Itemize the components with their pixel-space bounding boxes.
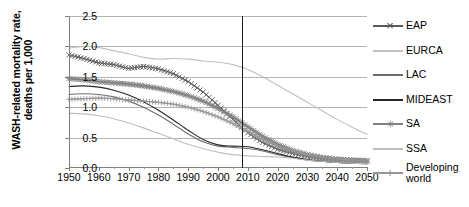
x-minor-tickmark [293, 167, 294, 169]
chart-figure: WASH-related mortality rate, deaths per … [0, 0, 469, 207]
legend-swatch-line-icon [373, 68, 403, 82]
chart-legend: ×EAPEURCALACMIDEAST✳SASSA+Developing wor… [373, 16, 469, 192]
y-tickmark [65, 77, 69, 78]
legend-marker-asterisk-icon: ✳ [384, 118, 396, 130]
y-axis-line [69, 16, 70, 168]
legend-label: LAC [403, 69, 426, 81]
y-tickmark [65, 46, 69, 47]
legend-swatch-line-icon [373, 44, 403, 58]
plot-area [69, 16, 367, 168]
x-minor-tickmark [322, 167, 323, 169]
legend-marker-plus-icon: + [384, 167, 396, 179]
x-minor-tickmark [173, 167, 174, 169]
x-minor-tickmark [114, 167, 115, 169]
legend-label: MIDEAST [403, 94, 453, 106]
x-minor-tickmark [263, 167, 264, 169]
legend-item-eurca[interactable]: EURCA [373, 41, 443, 61]
y-tickmark [65, 107, 69, 108]
series-layer [69, 16, 367, 168]
y-tick-label: 2.5 [71, 11, 97, 21]
legend-swatch-x-icon: × [373, 19, 403, 33]
legend-item-ssa[interactable]: SSA [373, 139, 427, 159]
legend-item-developing-world[interactable]: +Developing world [373, 163, 458, 183]
y-tick-label: 1.5 [71, 72, 97, 82]
legend-item-eap[interactable]: ×EAP [373, 16, 427, 36]
y-tickmark [65, 16, 69, 17]
x-minor-tickmark [233, 167, 234, 169]
legend-item-sa[interactable]: ✳SA [373, 114, 420, 134]
legend-label: SSA [403, 143, 427, 155]
x-minor-tickmark [203, 167, 204, 169]
legend-swatch-asterisk-icon: ✳ [373, 117, 403, 131]
y-tick-label: 2.0 [71, 41, 97, 51]
legend-item-lac[interactable]: LAC [373, 65, 426, 85]
legend-swatch-line-icon [373, 142, 403, 156]
y-tick-label: 1.0 [71, 102, 97, 112]
y-axis-title: WASH-related mortality rate, deaths per … [10, 0, 34, 160]
y-tickmark [65, 138, 69, 139]
legend-marker-x-icon: × [384, 20, 396, 32]
legend-swatch-line-icon [373, 93, 403, 107]
series-lac [69, 94, 367, 164]
legend-item-mideast[interactable]: MIDEAST [373, 90, 453, 110]
legend-label: EURCA [403, 45, 443, 57]
x-minor-tickmark [352, 167, 353, 169]
y-tickmark [65, 168, 69, 169]
x-minor-tickmark [144, 167, 145, 169]
legend-swatch-plus-icon: + [373, 166, 403, 180]
legend-label: SA [403, 118, 420, 130]
legend-label: EAP [403, 20, 427, 32]
y-tick-label: 0.5 [71, 133, 97, 143]
present-year-marker-line [242, 16, 244, 168]
legend-label: Developing world [403, 162, 458, 185]
